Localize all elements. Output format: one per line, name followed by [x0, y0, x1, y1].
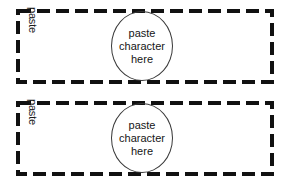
paste-card-1[interactable]: paste paste character here	[16, 9, 274, 84]
ellipse-line-2-1: paste	[129, 119, 156, 132]
ellipse-line-1-3: here	[131, 53, 153, 66]
template-page: paste paste character here paste paste c…	[0, 0, 289, 191]
paste-character-dropzone-1[interactable]: paste character here	[111, 11, 175, 83]
ellipse-instruction-2: paste character here	[111, 103, 173, 173]
ellipse-line-2-3: here	[131, 145, 153, 158]
ellipse-line-1-2: character	[119, 40, 165, 53]
paste-character-dropzone-2[interactable]: paste character here	[111, 103, 175, 175]
ellipse-line-2-2: character	[119, 132, 165, 145]
ellipse-line-1-1: paste	[129, 27, 156, 40]
paste-card-2[interactable]: paste paste character here	[16, 101, 274, 176]
ellipse-instruction-1: paste character here	[111, 11, 173, 81]
